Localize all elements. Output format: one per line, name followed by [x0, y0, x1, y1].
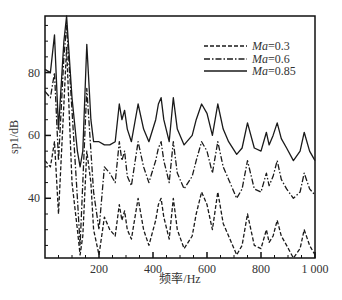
y-tick-label: 60: [28, 128, 40, 142]
y-tick-label: 80: [28, 66, 40, 80]
legend-label-ma085: Ma=0.85: [251, 64, 296, 78]
legend-label-ma03: Ma=0.3: [251, 39, 290, 53]
y-axis-title: sp1/dB: [7, 120, 21, 154]
x-tick-label: 1 000: [302, 262, 329, 276]
spectrum-chart: 406080 2004006008001 000 sp1/dB 频率/Hz Ma…: [0, 0, 342, 300]
y-tick-label: 40: [28, 191, 40, 205]
x-tick-label: 600: [198, 262, 216, 276]
x-axis-title: 频率/Hz: [159, 271, 200, 286]
x-tick-label: 200: [90, 262, 108, 276]
x-tick-label: 800: [252, 262, 270, 276]
